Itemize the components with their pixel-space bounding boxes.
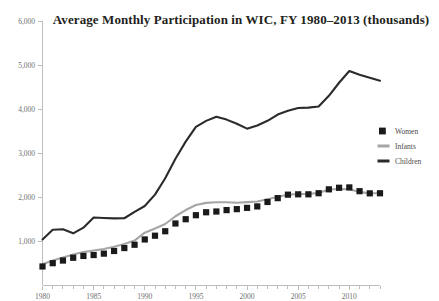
series-markers-women [39,184,383,269]
x-tick-label: 1980 [35,292,50,301]
data-point [275,195,281,201]
data-point [50,260,56,266]
data-point [70,255,76,261]
participation-line-chart: 6,0005,0004,0003,0002,0001,000 198019851… [0,0,439,301]
chart-container: Average Monthly Participation in WIC, FY… [0,0,439,301]
x-tick-label: 1990 [137,292,152,301]
data-point [111,248,117,254]
data-point [346,184,352,190]
data-point [234,206,240,212]
legend-label: Infants [395,142,416,151]
data-point [305,191,311,197]
data-point [131,242,137,248]
y-tick-label: 2,000 [18,193,35,202]
data-point [367,190,373,196]
data-point [336,185,342,191]
data-point [213,208,219,214]
data-point [377,190,383,196]
x-tick-group: 1980198519901995200020052010 [35,286,380,301]
legend-swatch-line [378,145,390,148]
x-tick-label: 2000 [240,292,255,301]
data-point [39,263,45,269]
data-point [183,216,189,222]
data-point [60,257,66,263]
data-point [295,191,301,197]
y-tick-label: 5,000 [18,61,35,70]
data-point [172,220,178,226]
legend-label: Women [395,127,418,136]
series-line-children [43,71,381,239]
data-point [91,252,97,258]
data-point [203,209,209,215]
x-tick-label: 1985 [86,292,101,301]
data-point [326,186,332,192]
y-tick-label: 4,000 [18,105,35,114]
y-axis: 6,0005,0004,0003,0002,0001,000 [18,17,42,285]
data-point [193,212,199,218]
legend-item-infants: Infants [378,142,416,151]
data-point [223,207,229,213]
data-point [121,245,127,251]
series-group [39,71,383,270]
data-point [254,203,260,209]
legend-item-children: Children [378,157,422,166]
y-tick-group: 6,0005,0004,0003,0002,0001,000 [18,17,42,246]
data-point [162,228,168,234]
data-point [80,253,86,259]
y-tick-label: 6,000 [18,17,35,26]
data-point [264,199,270,205]
y-tick-label: 1,000 [18,237,35,246]
y-tick-label: 3,000 [18,149,35,158]
x-tick-label: 1995 [188,292,203,301]
legend-label: Children [395,157,421,166]
x-axis: 1980198519901995200020052010 [35,286,380,301]
data-point [101,251,107,257]
chart-legend: WomenInfantsChildren [378,127,422,166]
data-point [316,190,322,196]
data-point [356,188,362,194]
data-point [152,233,158,239]
x-tick-label: 2005 [291,292,306,301]
data-point [285,192,291,198]
x-tick-label: 2010 [342,292,357,301]
data-point [142,236,148,242]
legend-swatch-line [378,160,390,163]
data-point [244,205,250,211]
legend-item-women: Women [379,127,418,136]
legend-swatch-square [379,128,386,135]
